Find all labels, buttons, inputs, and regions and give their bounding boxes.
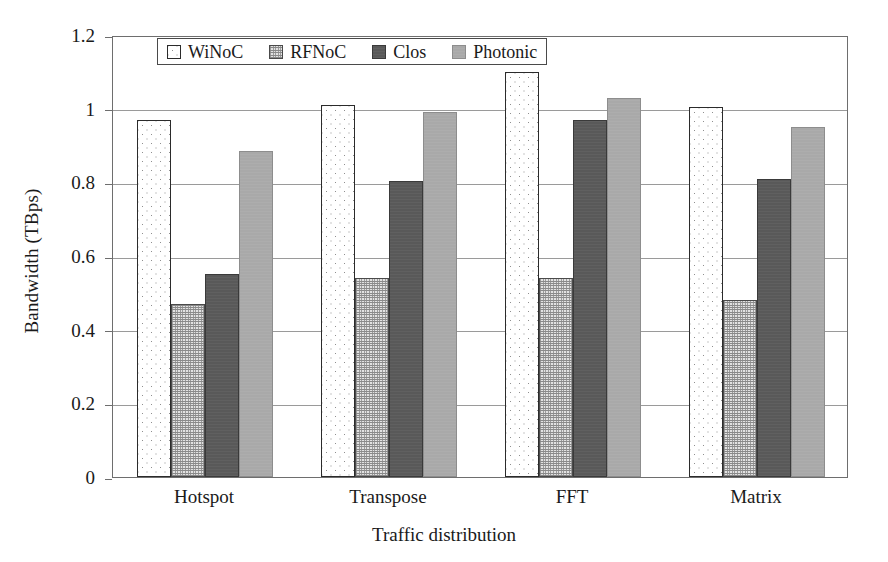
bar-photonic-matrix	[791, 127, 825, 477]
legend-item-clos: Clos	[372, 43, 426, 61]
bar-clos-fft	[573, 120, 607, 477]
gridline	[113, 110, 847, 111]
y-axis-tick-label: 0.8	[5, 172, 95, 194]
legend-label: RFNoC	[290, 43, 346, 61]
bar-clos-transpose	[389, 181, 423, 478]
bar-winoc-transpose	[321, 105, 355, 477]
legend-label: Clos	[393, 43, 426, 61]
y-axis-tick	[105, 110, 112, 111]
y-axis-tick	[105, 184, 112, 185]
y-axis-tick	[105, 479, 112, 480]
legend-item-photonic: Photonic	[452, 43, 537, 61]
bar-photonic-transpose	[423, 112, 457, 477]
bar-winoc-fft	[505, 72, 539, 477]
legend-swatch-clos-icon	[372, 45, 386, 59]
gridline	[113, 184, 847, 185]
bar-clos-hotspot	[205, 274, 239, 477]
x-axis-tick-label-fft: FFT	[472, 486, 672, 508]
bar-rfnoc-transpose	[355, 278, 389, 477]
gridline	[113, 258, 847, 259]
y-axis-tick-label: 1	[5, 99, 95, 121]
legend-item-winoc: WiNoC	[167, 43, 243, 61]
bar-chart-figure: Bandwidth (TBps) 00.20.40.60.811.2 WiNoC…	[0, 0, 888, 562]
legend-label: WiNoC	[188, 43, 243, 61]
legend-label: Photonic	[473, 43, 537, 61]
legend-item-rfnoc: RFNoC	[269, 43, 346, 61]
legend: WiNoCRFNoCClosPhotonic	[157, 38, 547, 65]
y-axis-tick-label: 0	[5, 467, 95, 489]
bar-clos-matrix	[757, 179, 791, 477]
bar-rfnoc-hotspot	[171, 304, 205, 477]
legend-swatch-rfnoc-icon	[269, 45, 283, 59]
y-axis-tick	[105, 258, 112, 259]
y-axis-tick-label: 0.4	[5, 320, 95, 342]
y-axis-tick-labels: 00.20.40.60.811.2	[0, 36, 95, 478]
y-axis-tick	[105, 331, 112, 332]
y-axis-tick-label: 1.2	[5, 25, 95, 47]
legend-swatch-photonic-icon	[452, 45, 466, 59]
plot-area	[112, 36, 848, 478]
legend-swatch-winoc-icon	[167, 45, 181, 59]
bar-photonic-hotspot	[239, 151, 273, 477]
bar-photonic-fft	[607, 98, 641, 477]
bar-rfnoc-matrix	[723, 300, 757, 477]
bar-rfnoc-fft	[539, 278, 573, 477]
y-axis-tick-label: 0.6	[5, 246, 95, 268]
x-axis-tick-label-transpose: Transpose	[288, 486, 488, 508]
y-axis-tick	[105, 405, 112, 406]
y-axis-tick	[105, 37, 112, 38]
bar-winoc-matrix	[689, 107, 723, 477]
x-axis-tick-label-hotspot: Hotspot	[104, 486, 304, 508]
bar-winoc-hotspot	[137, 120, 171, 477]
x-axis-tick-label-matrix: Matrix	[656, 486, 856, 508]
x-axis-title: Traffic distribution	[0, 524, 888, 546]
y-axis-tick-label: 0.2	[5, 393, 95, 415]
